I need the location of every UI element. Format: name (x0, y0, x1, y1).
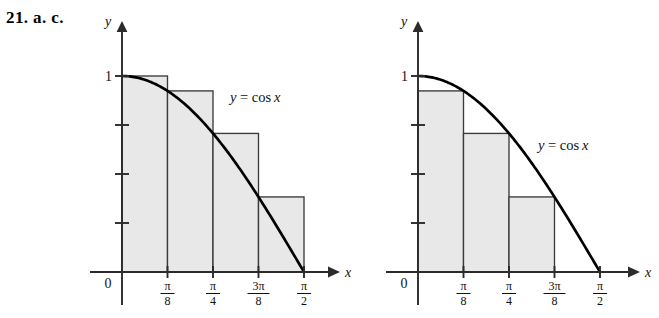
x-axis-arrow-right (628, 267, 640, 278)
fraction-numerator: π (597, 279, 603, 293)
problem-label: 21. a. c. (6, 8, 64, 28)
curve-label-left: y = cos x (228, 89, 281, 105)
fraction-denominator: 8 (256, 294, 262, 308)
chart-right-svg: π8π43π8π2 y x 0 1 y = cos x (366, 0, 659, 318)
x-axis-arrow-left (328, 267, 340, 278)
fraction-denominator: 2 (597, 294, 603, 308)
y-axis-label-right: y (399, 14, 408, 29)
origin-label-left: 0 (105, 276, 112, 291)
figure-root: 21. a. c. π8π43π8π2 y x 0 1 y = cos x (0, 0, 659, 318)
x-tick-label: π4 (206, 279, 220, 308)
riemann-bar (509, 197, 555, 272)
x-tick-label: π8 (457, 279, 471, 308)
x-axis-label-left: x (344, 265, 352, 280)
fraction-numerator: 3π (252, 279, 264, 293)
x-tick-label: π8 (161, 279, 175, 308)
x-tick-label: 3π8 (544, 279, 566, 308)
origin-label-right: 0 (401, 276, 408, 291)
fraction-denominator: 2 (301, 294, 307, 308)
fraction-numerator: π (301, 279, 307, 293)
x-tick-label: π2 (297, 279, 311, 308)
riemann-bar (464, 133, 510, 272)
y-axis-arrow-right (413, 21, 424, 32)
bar-group-right (418, 91, 555, 272)
chart-left-svg: π8π43π8π2 y x 0 1 y = cos x (70, 0, 360, 318)
y-axis-one-label-right: 1 (401, 69, 408, 84)
fraction-numerator: π (210, 279, 216, 293)
curve-label-right: y = cos x (536, 137, 589, 153)
x-tick-label: 3π8 (248, 279, 270, 308)
y-axis-one-label-left: 1 (105, 69, 112, 84)
bar-group-left (122, 76, 304, 272)
fraction-denominator: 4 (210, 294, 216, 308)
x-axis-label-right: x (644, 265, 652, 280)
y-axis-label-left: y (103, 14, 112, 29)
y-axis-arrow-left (117, 21, 128, 32)
x-tick-label: π4 (502, 279, 516, 308)
fraction-numerator: 3π (548, 279, 560, 293)
fraction-denominator: 8 (165, 294, 171, 308)
chart-left-endpoint-sum: π8π43π8π2 y x 0 1 y = cos x (70, 0, 360, 318)
fraction-denominator: 8 (552, 294, 558, 308)
fraction-numerator: π (164, 279, 170, 293)
fraction-denominator: 4 (506, 294, 512, 308)
riemann-bar (168, 91, 214, 272)
fraction-numerator: π (460, 279, 466, 293)
chart-right-endpoint-sum: π8π43π8π2 y x 0 1 y = cos x (366, 0, 659, 318)
fraction-numerator: π (506, 279, 512, 293)
x-tick-label: π2 (593, 279, 607, 308)
fraction-denominator: 8 (461, 294, 467, 308)
riemann-bar (418, 91, 464, 272)
riemann-bar (213, 133, 259, 272)
